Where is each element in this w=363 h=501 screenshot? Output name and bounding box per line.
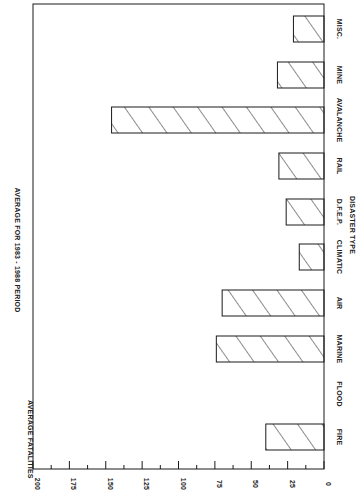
category-label: RAIL <box>336 157 343 175</box>
bar-rail <box>279 153 324 179</box>
value-axis-ticks <box>33 461 324 469</box>
bar-chart: FIREFLOODMARINEAIRCLIMATICD.F.E.P.RAILAV… <box>0 0 363 501</box>
bar-marine <box>216 336 324 362</box>
value-axis-tick-labels: 0255075100125150175200 <box>34 478 332 490</box>
category-label: CLIMATIC <box>336 240 343 275</box>
category-label: FLOOD <box>336 381 343 407</box>
tick-label: 125 <box>143 478 150 490</box>
bars-group <box>112 16 324 450</box>
tick-label: 175 <box>70 478 77 490</box>
bar-misc <box>293 16 324 42</box>
category-axis-label: DISASTER TYPE <box>349 196 356 254</box>
bar-avalanche <box>112 107 324 133</box>
tick-label: 75 <box>216 480 223 488</box>
tick-label: 100 <box>180 478 187 490</box>
category-label: MARINE <box>336 335 343 364</box>
bar-air <box>222 290 324 316</box>
tick-label: 50 <box>252 480 259 488</box>
tick-label: 0 <box>325 482 332 486</box>
bar-dfep <box>286 199 324 225</box>
chart-title: AVERAGE FOR 1983 - 1988 PERIOD <box>14 188 21 313</box>
category-label: MINE <box>336 66 343 84</box>
bar-mine <box>277 62 324 88</box>
bar-fire <box>266 424 324 450</box>
category-label: D.F.E.P. <box>336 199 343 225</box>
tick-label: 150 <box>107 478 114 490</box>
category-label: AIR <box>336 297 343 310</box>
category-label: AVALANCHE <box>336 98 343 143</box>
category-label: MISC. <box>336 19 343 39</box>
value-axis-label: AVERAGE FATALITIES <box>27 400 34 479</box>
category-label: FIRE <box>336 429 343 446</box>
bar-climatic <box>299 244 324 270</box>
category-labels: FIREFLOODMARINEAIRCLIMATICD.F.E.P.RAILAV… <box>336 19 343 446</box>
tick-label: 25 <box>289 480 296 488</box>
tick-label: 200 <box>34 478 41 490</box>
